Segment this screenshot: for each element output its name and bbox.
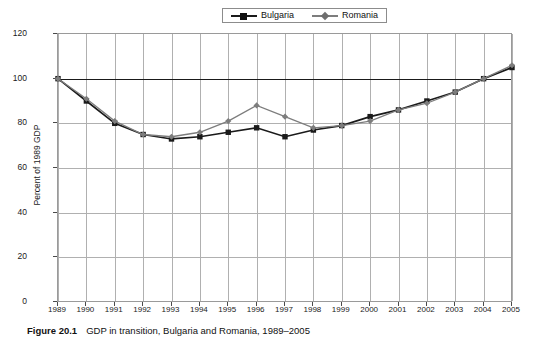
plot-area (57, 33, 512, 302)
y-tick-label: 100 (0, 73, 27, 83)
plot-area-wrapper: Percent of 1989 GDP 19891990199119921993… (0, 0, 546, 318)
caption-rule (0, 318, 546, 319)
data-point-romania-1997 (282, 114, 288, 120)
x-tick-label: 1990 (76, 305, 94, 314)
x-tick-label: 1989 (48, 305, 66, 314)
x-tick-label: 1999 (332, 305, 350, 314)
y-axis-label: Percent of 1989 GDP (32, 70, 42, 260)
x-tick-label: 1996 (247, 305, 265, 314)
data-point-bulgaria-1997 (282, 134, 287, 139)
y-tick-label: 40 (0, 207, 27, 217)
figure-container: Bulgaria Romania Percent of 1989 GDP 198… (0, 0, 546, 350)
x-tick-label: 1995 (218, 305, 236, 314)
data-point-romania-1996 (254, 102, 260, 108)
x-tick-label: 2004 (474, 305, 492, 314)
series-lines (58, 34, 513, 303)
y-tick-label: 80 (0, 117, 27, 127)
x-tick-label: 2002 (417, 305, 435, 314)
figure-caption: Figure 20.1GDP in transition, Bulgaria a… (27, 325, 527, 336)
y-tick-label: 60 (0, 162, 27, 172)
y-tick-label: 20 (0, 251, 27, 261)
figure-caption-text: GDP in transition, Bulgaria and Romania,… (86, 325, 310, 336)
x-tick-label: 1998 (303, 305, 321, 314)
x-tick-label: 1993 (162, 305, 180, 314)
x-tick-label: 2000 (360, 305, 378, 314)
data-point-bulgaria-1996 (254, 125, 259, 130)
x-tick-label: 2001 (389, 305, 407, 314)
data-point-bulgaria-1995 (226, 130, 231, 135)
x-tick-label: 1997 (275, 305, 293, 314)
x-tick-label: 1992 (133, 305, 151, 314)
x-tick-label: 2003 (445, 305, 463, 314)
x-tick-label: 2005 (502, 305, 520, 314)
data-point-romania-1995 (225, 118, 231, 124)
x-tick-label: 1991 (105, 305, 123, 314)
x-tick-label: 1994 (190, 305, 208, 314)
y-tick-label: 0 (0, 296, 27, 306)
series-line-bulgaria (58, 68, 512, 139)
series-line-romania (58, 65, 512, 136)
figure-number: Figure 20.1 (27, 325, 77, 336)
y-tick-label: 120 (0, 28, 27, 38)
